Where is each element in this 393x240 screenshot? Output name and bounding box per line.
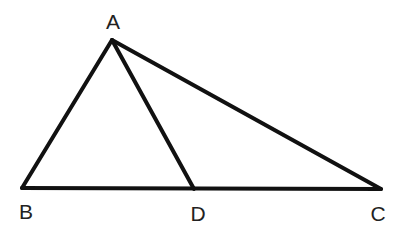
label-a: A: [106, 10, 120, 33]
label-b: B: [19, 200, 33, 223]
segment-ab: [22, 40, 112, 188]
label-c: C: [370, 202, 385, 225]
triangle-diagram: A B D C: [0, 0, 393, 240]
segment-bc: [22, 188, 381, 189]
label-d: D: [190, 202, 205, 225]
